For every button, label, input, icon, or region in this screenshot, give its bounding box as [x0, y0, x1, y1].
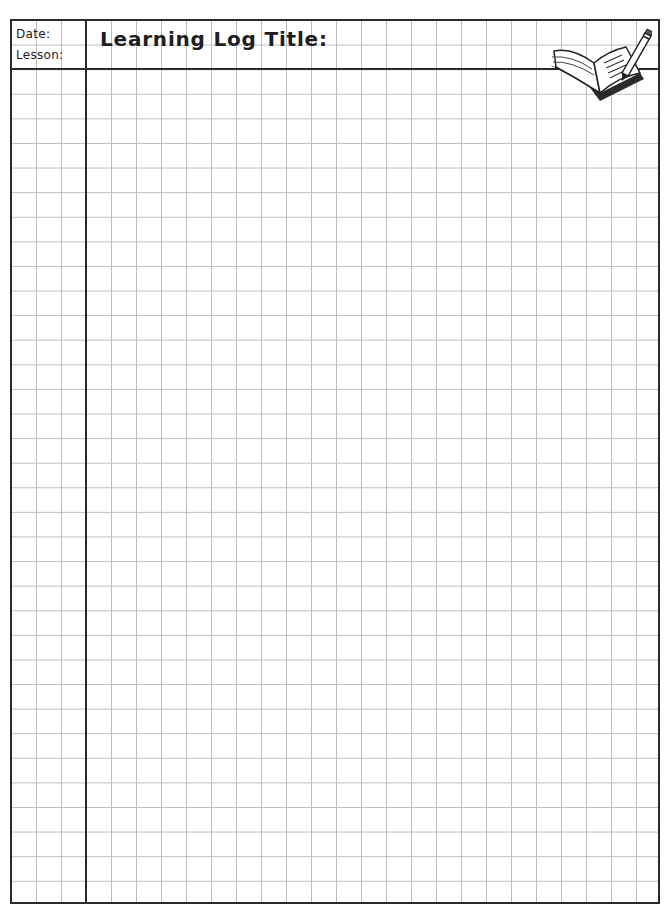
learning-log-title-label: Learning Log Title:: [100, 27, 328, 51]
date-label: Date:: [16, 27, 50, 41]
left-margin-rule: [85, 21, 87, 902]
graph-paper-sheet: Date: Lesson: Learning Log Title:: [10, 19, 660, 904]
book-and-pencil-icon: [542, 23, 652, 103]
lesson-label: Lesson:: [16, 48, 63, 62]
